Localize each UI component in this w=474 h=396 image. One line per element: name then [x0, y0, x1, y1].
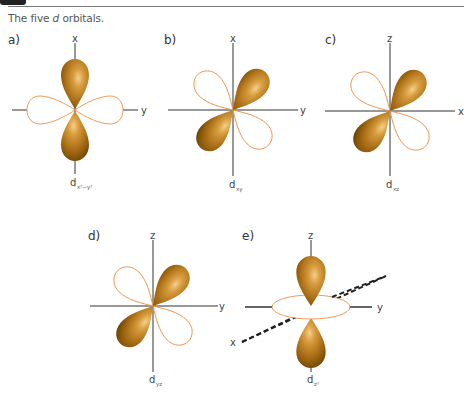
axis-label-x: x — [230, 33, 236, 44]
orbital-name: d — [307, 374, 313, 385]
orbital-subscript: x²−y² — [77, 184, 93, 191]
orbital-subscript: yz — [156, 381, 162, 388]
orbital-subscript: z² — [314, 381, 319, 387]
orbital-name: d — [229, 179, 235, 190]
axis-label-x: x — [230, 337, 236, 348]
orbital-dxy: x y d xy — [168, 33, 306, 193]
orbital-name: d — [386, 179, 392, 190]
orbitals-diagram: x y d x²−y² x y d xy z x d xz — [0, 0, 474, 396]
orbital-subscript: xy — [236, 186, 243, 193]
axis-label-x: x — [458, 106, 464, 117]
orbital-dx2y2: x y d x²−y² — [12, 33, 147, 191]
axis-label-z: z — [150, 230, 155, 241]
axis-label-y: y — [141, 105, 147, 116]
orbital-subscript: xz — [393, 186, 399, 192]
axis-label-y: y — [219, 301, 225, 312]
axis-label-x: x — [72, 33, 78, 44]
axis-label-y: y — [300, 105, 306, 116]
orbital-name: d — [70, 177, 76, 188]
axis-label-z: z — [308, 230, 313, 241]
axis-label-y: y — [377, 302, 383, 313]
orbital-dz2: z y x d z² — [230, 230, 386, 387]
axis-label-z: z — [387, 33, 392, 44]
orbital-name: d — [149, 374, 155, 385]
orbital-dxz: z x d xz — [325, 33, 464, 192]
orbital-dyz: z y d yz — [90, 230, 225, 388]
